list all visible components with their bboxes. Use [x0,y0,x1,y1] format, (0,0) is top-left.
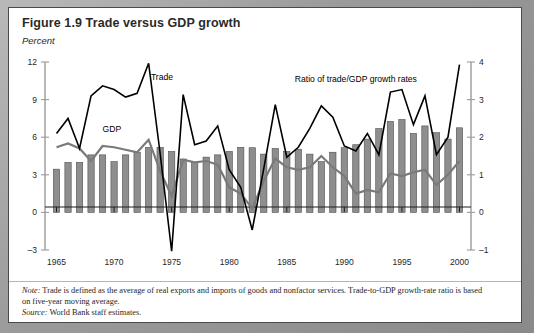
bar [295,149,301,212]
bar [318,162,324,213]
bar [456,128,462,213]
y2-tick-label: –1 [479,245,489,255]
y2-tick-label: 4 [479,57,484,67]
bar [53,169,59,212]
annotation-ratio-of-trade-gdp-growth-rates: Ratio of trade/GDP growth rates [295,74,417,84]
x-tick-label: 1965 [47,257,66,267]
y2-tick-label: 0 [479,207,484,217]
y2-tick-label: 1 [479,170,484,180]
bar [330,152,336,212]
bar [111,162,117,213]
bar [145,147,151,212]
y-tick-label: 3 [32,170,37,180]
bar [192,162,198,212]
bar [203,157,209,212]
annotation-gdp: GDP [103,124,122,134]
bar [307,154,313,212]
source-text: World Bank staff estimates. [48,308,142,317]
bar [99,155,105,213]
bar [387,121,393,212]
x-tick-label: 1985 [277,257,296,267]
y2-tick-label: 2 [479,132,484,142]
source-line: Source: World Bank staff estimates. [22,308,492,319]
note-divider [9,281,521,282]
y-tick-label: –3 [28,245,38,255]
x-tick-label: 1980 [220,257,239,267]
bar [134,152,140,212]
y-tick-label: 0 [32,207,37,217]
x-tick-label: 1975 [162,257,181,267]
bar [238,147,244,212]
bar [284,151,290,212]
annotation-trade: Trade [151,72,173,82]
figure-notes: Note: Trade is defined as the average of… [22,286,492,319]
axes-group [41,62,475,250]
note-line: Note: Trade is defined as the average of… [22,286,492,308]
chart-annotations: TradeGDPRatio of trade/GDP growth rates [103,72,417,135]
bar [76,162,82,212]
note-text: Trade is defined as the average of real … [22,286,482,306]
bar [88,155,94,213]
y-tick-label: 9 [32,95,37,105]
note-prefix: Note: [22,286,40,295]
x-tick-label: 1995 [392,257,411,267]
bar [168,151,174,212]
chart-canvas: –3036912–1012341965197019751980198519901… [0,0,534,333]
bar [364,139,370,212]
axis-tick-labels: –3036912–1012341965197019751980198519901… [28,57,489,267]
bar [353,145,359,213]
figure-page: Figure 1.9 Trade versus GDP growth Perce… [0,0,534,333]
bar [399,120,405,213]
x-tick-label: 2000 [450,257,469,267]
bar [122,155,128,213]
source-prefix: Source: [22,308,48,317]
x-tick-label: 1990 [335,257,354,267]
y-tick-label: 6 [32,132,37,142]
y2-tick-label: 3 [479,95,484,105]
bar [65,162,71,212]
x-tick-label: 1970 [105,257,124,267]
y-tick-label: 12 [28,57,38,67]
